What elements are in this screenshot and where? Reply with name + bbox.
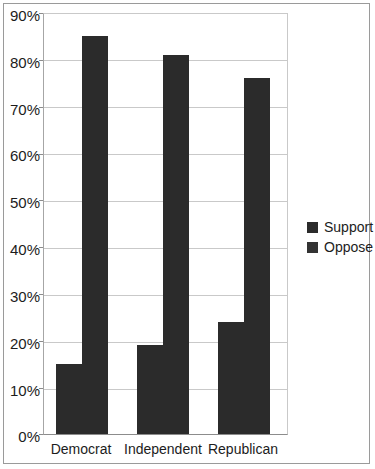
legend-swatch-icon [307, 242, 318, 253]
y-tick-label-10: 10% [10, 383, 40, 398]
bar-independent-oppose [163, 55, 189, 434]
x-axis: Democrat Independent Republican [43, 438, 288, 462]
legend-item-oppose: Oppose [307, 237, 369, 257]
bar-democrat-support [56, 364, 82, 434]
plot-area [43, 13, 288, 435]
bar-republican-support [218, 322, 244, 434]
legend-item-support: Support [307, 217, 369, 237]
y-tick-label-20: 20% [10, 336, 40, 351]
legend-label-oppose: Oppose [324, 240, 373, 254]
legend-swatch-icon [307, 222, 318, 233]
x-tick-label-independent: Independent [124, 438, 200, 460]
bar-independent-support [137, 345, 163, 434]
chart-frame: 90% 80% 70% 60% 50% 40% 30% 20% 10% 0% [3, 3, 370, 464]
legend-label-support: Support [324, 220, 373, 234]
bar-republican-oppose [244, 78, 270, 434]
y-tick-label-60: 60% [10, 148, 40, 163]
y-tick-label-0: 0% [18, 429, 40, 444]
bar-democrat-oppose [82, 36, 108, 434]
y-tick-label-80: 80% [10, 55, 40, 70]
x-tick-label-republican: Republican [205, 438, 281, 460]
x-tick-label-democrat: Democrat [43, 438, 119, 460]
y-tick-label-40: 40% [10, 242, 40, 257]
y-tick-label-90: 90% [10, 8, 40, 23]
y-tick-label-30: 30% [10, 289, 40, 304]
y-axis: 90% 80% 70% 60% 50% 40% 30% 20% 10% 0% [4, 4, 40, 465]
chart-legend: Support Oppose [307, 217, 369, 257]
y-tick-label-50: 50% [10, 195, 40, 210]
y-tick-label-70: 70% [10, 102, 40, 117]
